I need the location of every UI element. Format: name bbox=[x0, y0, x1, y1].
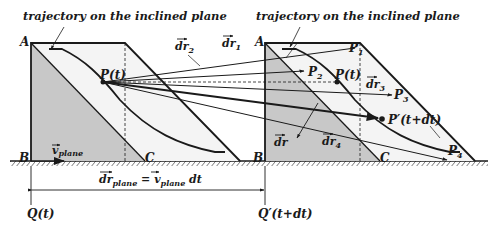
label-p-right: P(t) bbox=[334, 68, 361, 82]
point-p-prime bbox=[379, 116, 385, 122]
equation-plane-displacement: drplane = vplane dt bbox=[99, 173, 202, 188]
label-a-left: A bbox=[19, 35, 29, 49]
label-p-left: P(t) bbox=[99, 68, 126, 82]
label-a-right: A bbox=[254, 35, 264, 49]
label-dr: dr bbox=[274, 136, 289, 149]
label-frame-left: Q(t) bbox=[27, 207, 54, 221]
label-dr1: dr1 bbox=[222, 37, 241, 52]
label-dr2: dr2 bbox=[175, 40, 195, 55]
relative-motion-diagram: trajectory on the inclined plane traject… bbox=[0, 0, 496, 231]
label-c-right: C bbox=[380, 151, 390, 165]
label-b-left: B bbox=[18, 151, 29, 165]
label-frame-right: Q′(t+dt) bbox=[258, 207, 313, 221]
right-prism bbox=[265, 43, 475, 161]
label-b-right: B bbox=[252, 151, 263, 165]
label-c-left: C bbox=[145, 151, 155, 165]
title-left: trajectory on the inclined plane bbox=[23, 9, 227, 23]
label-p-prime: P′(t+dt) bbox=[387, 113, 441, 127]
title-right: trajectory on the inclined plane bbox=[256, 9, 460, 23]
left-prism bbox=[31, 43, 240, 161]
ground bbox=[10, 161, 488, 166]
